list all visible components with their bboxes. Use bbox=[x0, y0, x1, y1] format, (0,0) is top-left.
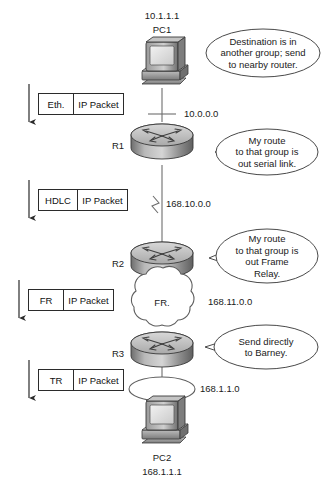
packet-payload-hdlc: IP Packet bbox=[78, 190, 127, 210]
pc1-icon bbox=[142, 37, 188, 84]
r3-icon bbox=[131, 332, 193, 367]
pc2-icon bbox=[142, 396, 188, 443]
callout-r1-line-1: My route bbox=[249, 135, 286, 147]
cloud-label: FR. bbox=[142, 297, 182, 308]
pc2-label: PC2 bbox=[132, 452, 192, 463]
packet-box-fr: FR IP Packet bbox=[28, 289, 114, 311]
callout-r2: My route to that group is out Frame Rela… bbox=[216, 229, 318, 283]
network-label-168-10: 168.10.0.0 bbox=[166, 198, 211, 209]
packet-header-ethernet: Eth. bbox=[39, 94, 74, 114]
callout-shapes bbox=[205, 29, 320, 369]
serial-link-icon bbox=[152, 196, 159, 213]
callout-r2-line-3: out Frame bbox=[245, 256, 288, 268]
network-label-10: 10.0.0.0 bbox=[184, 108, 218, 119]
callout-pc1-line-2: another group; send bbox=[220, 47, 305, 59]
pc2-address: 168.1.1.1 bbox=[127, 466, 197, 477]
packet-payload-tr: IP Packet bbox=[74, 370, 123, 390]
callout-r3: Send directly to Barney. bbox=[214, 329, 318, 365]
pc1-label: PC1 bbox=[132, 24, 192, 35]
network-label-168-1-1: 168.1.1.0 bbox=[200, 383, 240, 394]
callout-pc1-line-3: to nearby router. bbox=[228, 59, 297, 71]
packet-header-fr: FR bbox=[29, 290, 64, 310]
callout-r1-line-2: to that group is bbox=[236, 146, 299, 158]
packet-header-hdlc: HDLC bbox=[39, 190, 78, 210]
callout-r2-line-4: Relay. bbox=[254, 268, 280, 280]
packet-box-ethernet: Eth. IP Packet bbox=[38, 93, 124, 115]
callout-r3-line-1: Send directly bbox=[239, 336, 294, 348]
callout-r2-line-2: to that group is bbox=[236, 245, 299, 257]
r3-label: R3 bbox=[112, 348, 124, 359]
callout-pc1: Destination is in another group; send to… bbox=[206, 29, 320, 77]
packet-header-tr: TR bbox=[39, 370, 74, 390]
packet-box-hdlc: HDLC IP Packet bbox=[38, 189, 128, 211]
network-diagram: Destination is in another group; send to… bbox=[0, 0, 325, 495]
pc1-address: 10.1.1.1 bbox=[132, 10, 192, 21]
packet-box-tr: TR IP Packet bbox=[38, 369, 124, 391]
callout-r3-line-2: to Barney. bbox=[245, 347, 288, 359]
r1-icon bbox=[131, 124, 193, 159]
flow-arrows bbox=[19, 84, 29, 398]
callout-pc1-line-1: Destination is in bbox=[229, 36, 296, 48]
callout-r1: My route to that group is out serial lin… bbox=[216, 129, 318, 175]
packet-payload-fr: IP Packet bbox=[64, 290, 113, 310]
r2-label: R2 bbox=[112, 258, 124, 269]
r1-label: R1 bbox=[112, 140, 124, 151]
packet-payload-ethernet: IP Packet bbox=[74, 94, 123, 114]
callout-r1-line-3: out serial link. bbox=[238, 158, 296, 170]
network-label-168-11: 168.11.0.0 bbox=[208, 296, 252, 307]
callout-r2-line-1: My route bbox=[249, 233, 286, 245]
